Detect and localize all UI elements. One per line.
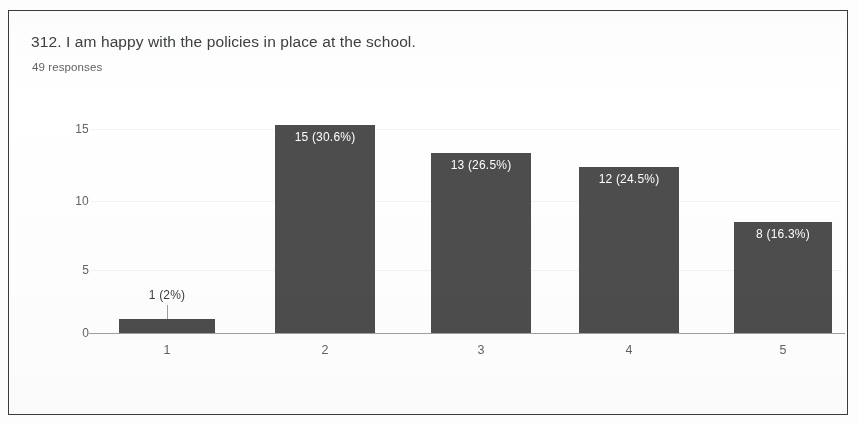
x-axis-tick-5: 5 [779, 343, 786, 357]
screenshot-root: 312. I am happy with the policies in pla… [0, 0, 858, 425]
x-axis-tick-2: 2 [321, 343, 328, 357]
plot-area: 15 10 5 0 1 (2%) 15 (30.6%) [9, 11, 849, 414]
x-axis-tick-4: 4 [625, 343, 632, 357]
x-axis-tick-3: 3 [477, 343, 484, 357]
x-axis: 1 2 3 4 5 [9, 11, 849, 414]
chart-frame: 312. I am happy with the policies in pla… [8, 10, 848, 415]
x-axis-tick-1: 1 [163, 343, 170, 357]
